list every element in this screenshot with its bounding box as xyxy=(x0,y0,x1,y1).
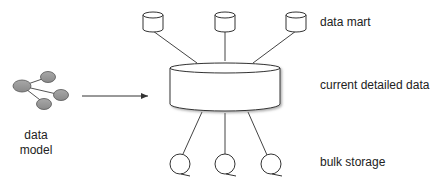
data-model-label-line1: data xyxy=(16,128,56,143)
bulk-storage-reel-1 xyxy=(170,154,190,176)
current-detailed-data-cylinder xyxy=(170,63,280,111)
bulk-storage-reel-2 xyxy=(215,154,236,176)
data-model-label: data model xyxy=(16,128,56,158)
bulk-storage-reel-3 xyxy=(261,154,282,176)
data-model-label-line2: model xyxy=(16,143,56,158)
current-detailed-data-label: current detailed data xyxy=(320,78,429,92)
data-mart-cylinder-3 xyxy=(286,12,306,32)
data-mart-cylinder-2 xyxy=(215,12,235,32)
bulk-storage-label: bulk storage xyxy=(320,155,385,169)
data-mart-cylinder-1 xyxy=(143,12,163,32)
data-model-icon xyxy=(13,72,69,110)
data-mart-label: data mart xyxy=(320,15,371,29)
